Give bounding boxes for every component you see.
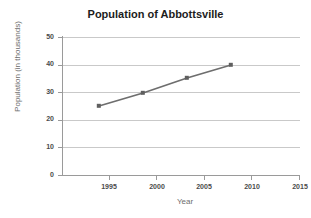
data-point-2000 — [141, 91, 145, 95]
x-tick-label-2015: 2015 — [283, 183, 311, 190]
x-axis-ticks — [109, 176, 299, 181]
y-tick-label-20: 20 — [32, 115, 54, 122]
data-point-2010 — [229, 63, 233, 67]
y-axis-title: Population (in thousands) — [13, 2, 22, 132]
data-point-1995 — [97, 104, 101, 108]
y-tick-label-50: 50 — [32, 33, 54, 40]
x-tick-label-2005: 2005 — [187, 183, 221, 190]
y-tick-label-10: 10 — [32, 143, 54, 150]
x-tick-label-2000: 2000 — [140, 183, 174, 190]
chart-container: Population of Abbottsville — [0, 0, 311, 218]
gridlines — [62, 38, 300, 148]
x-tick-label-1995: 1995 — [92, 183, 126, 190]
x-tick-label-2010: 2010 — [235, 183, 269, 190]
x-axis-title: Year — [60, 197, 310, 206]
y-tick-label-40: 40 — [32, 60, 54, 67]
y-tick-label-30: 30 — [32, 88, 54, 95]
series-line-population — [99, 65, 231, 106]
data-point-2005 — [185, 76, 189, 80]
y-axis-ticks — [58, 38, 62, 176]
y-tick-label-0: 0 — [32, 171, 54, 178]
